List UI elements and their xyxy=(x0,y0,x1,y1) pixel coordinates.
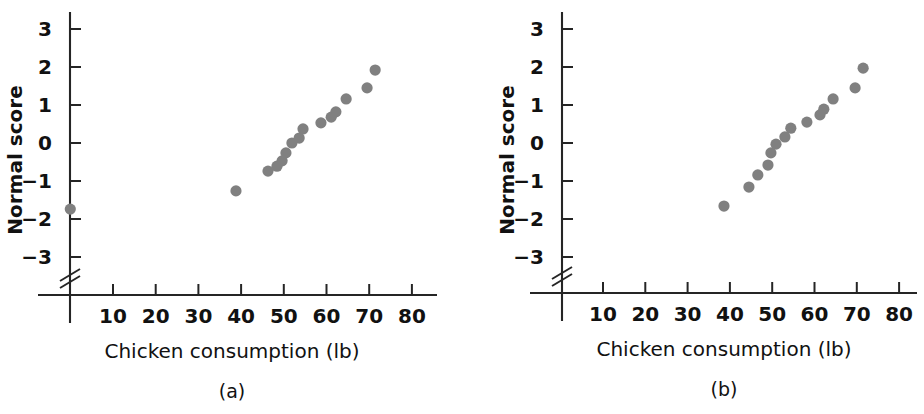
y-tick-label: 1 xyxy=(530,93,544,117)
data-point xyxy=(752,169,763,180)
x-tick-label: 20 xyxy=(631,302,659,326)
y-axis-title: Normal score xyxy=(3,85,27,234)
y-tick-label: 3 xyxy=(38,17,52,41)
data-point xyxy=(297,123,308,134)
x-tick-label: 70 xyxy=(355,304,383,328)
data-point xyxy=(361,82,372,93)
x-axis-title: Chicken consumption (lb) xyxy=(104,339,359,363)
normal-probability-plot-figure: 3210−1−2−31020304050607080Normal scoreCh… xyxy=(0,0,924,414)
x-axis-title: Chicken consumption (lb) xyxy=(596,337,851,361)
y-tick-label: 2 xyxy=(38,55,52,79)
data-point xyxy=(743,181,754,192)
data-point xyxy=(828,93,839,104)
data-point xyxy=(280,147,291,158)
x-tick-label: 60 xyxy=(313,304,341,328)
x-tick-label: 70 xyxy=(843,302,871,326)
panel-b-plot: 3210−1−2−31020304050607080Normal scoreCh… xyxy=(462,0,924,414)
x-tick-label: 30 xyxy=(184,304,212,328)
data-point xyxy=(801,117,812,128)
x-tick-label: 80 xyxy=(398,304,426,328)
panel-caption: (a) xyxy=(219,380,245,402)
x-tick-label: 10 xyxy=(99,304,127,328)
y-axis-title: Normal score xyxy=(495,85,519,234)
data-point-group xyxy=(718,63,868,212)
x-tick-label: 10 xyxy=(589,302,617,326)
x-tick-label: 40 xyxy=(716,302,744,326)
x-tick-label: 20 xyxy=(142,304,170,328)
panel-a: 3210−1−2−31020304050607080Normal scoreCh… xyxy=(0,0,462,414)
y-tick-label: −3 xyxy=(513,245,544,269)
x-tick-label: 60 xyxy=(801,302,829,326)
data-point-group xyxy=(65,64,381,214)
x-tick-label: 50 xyxy=(270,304,298,328)
data-point xyxy=(230,185,241,196)
data-point xyxy=(341,93,352,104)
x-tick-label: 50 xyxy=(758,302,786,326)
data-point xyxy=(850,82,861,93)
y-tick-label: 3 xyxy=(530,17,544,41)
y-tick-label: 0 xyxy=(530,131,544,155)
x-tick-label: 30 xyxy=(674,302,702,326)
data-point xyxy=(370,64,381,75)
data-point xyxy=(65,204,76,215)
panel-caption: (b) xyxy=(711,378,738,400)
y-tick-label: 2 xyxy=(530,55,544,79)
x-tick-label: 80 xyxy=(885,302,913,326)
data-point xyxy=(858,63,869,74)
y-tick-label: 1 xyxy=(38,93,52,117)
panel-a-plot: 3210−1−2−31020304050607080Normal scoreCh… xyxy=(0,0,462,414)
data-point xyxy=(818,104,829,115)
panel-b: 3210−1−2−31020304050607080Normal scoreCh… xyxy=(462,0,924,414)
data-point xyxy=(785,123,796,134)
y-tick-label: −3 xyxy=(21,245,52,269)
data-point xyxy=(770,139,781,150)
data-point xyxy=(718,200,729,211)
data-point xyxy=(315,117,326,128)
data-point xyxy=(762,159,773,170)
y-tick-label: 0 xyxy=(38,131,52,155)
x-tick-label: 40 xyxy=(227,304,255,328)
data-point xyxy=(330,106,341,117)
